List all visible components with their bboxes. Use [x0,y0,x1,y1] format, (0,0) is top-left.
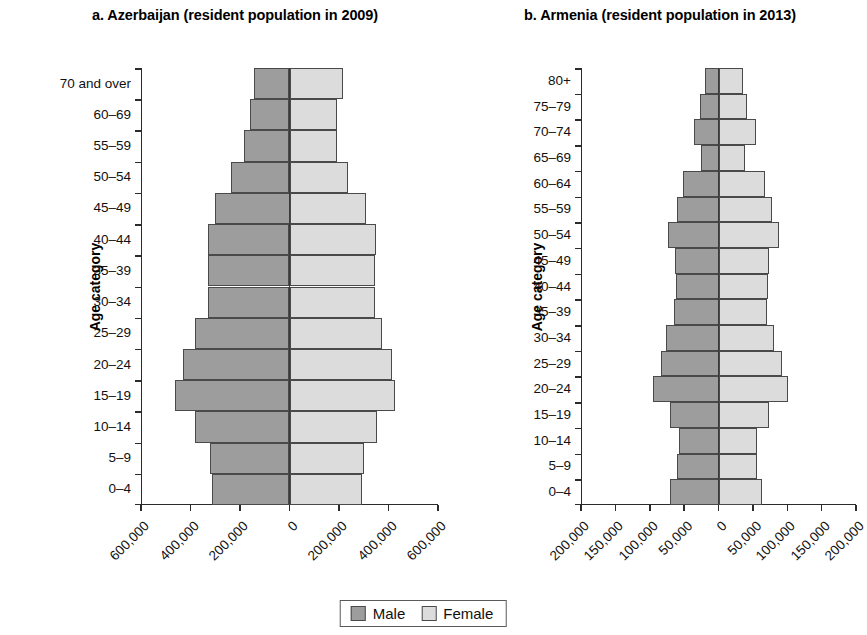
y-axis-tick-label: 75–79 [533,100,571,114]
bar-male [661,351,718,377]
bar-male [668,222,718,248]
bar-male [676,274,719,300]
y-axis-tick [575,94,581,96]
x-axis-tick-label: 50,000 [656,519,695,558]
bar-male [694,119,719,145]
bar-male [677,197,719,223]
x-axis-tick-label: 400,000 [157,519,201,563]
bar-female [719,428,758,454]
zero-center-line [289,68,291,505]
y-axis-tick-label: 30–34 [533,331,571,345]
y-axis-tick-label: 15–19 [93,389,131,403]
y-axis-tick [575,68,581,70]
y-axis-tick-label: 5–9 [548,459,571,473]
x-axis-tick [855,505,857,511]
bar-female [290,474,362,505]
x-axis-tick-label: 200,000 [306,519,350,563]
y-axis-tick [135,443,141,445]
y-axis-tick-label: 25–29 [93,326,131,340]
y-axis-tick [135,255,141,257]
y-axis-tick [575,325,581,327]
y-axis-tick-label: 20–24 [533,382,571,396]
y-axis-tick-label: 60–64 [533,177,571,191]
x-axis-tick [289,505,291,511]
y-axis-tick-label: 0–4 [548,485,571,499]
y-axis-tick [575,376,581,378]
x-axis-tick [752,505,754,511]
y-axis-tick [135,349,141,351]
bar-male [683,171,718,197]
bar-male [674,299,719,325]
bar-male [244,130,290,161]
bar-male [254,68,290,99]
y-axis-tick [575,274,581,276]
bar-female [290,162,349,193]
bar-female [290,130,337,161]
legend-swatch-female-icon [421,606,436,621]
bar-female [719,197,773,223]
y-axis-tick-label: 10–14 [533,434,571,448]
y-axis-tick [575,145,581,147]
x-axis-tick-label: 600,000 [108,519,152,563]
bar-female [719,274,769,300]
y-axis-tick [575,351,581,353]
bar-male [175,380,290,411]
x-axis-tick [388,505,390,511]
x-axis-tick [683,505,685,511]
bar-male [208,255,290,286]
y-axis-tick [575,248,581,250]
y-axis-tick-label: 70 and over [60,77,131,91]
y-axis-tick-label: 30–34 [93,295,131,309]
y-axis-title-azerbaijan: Age category [87,242,103,331]
y-axis-tick-label: 45–49 [93,201,131,215]
y-axis-tick [575,119,581,121]
y-axis-tick [135,68,141,70]
y-axis-tick [575,197,581,199]
x-axis-tick-label: 400,000 [355,519,399,563]
y-axis-tick [135,162,141,164]
y-axis-tick [575,222,581,224]
y-axis-tick-label: 50–54 [533,228,571,242]
x-axis-tick [615,505,617,511]
bar-female [719,94,747,120]
y-axis-tick-label: 40–44 [533,280,571,294]
legend: Male Female [340,600,507,627]
bar-female [290,193,367,224]
y-axis-tick-label: 60–69 [93,108,131,122]
plot-area-azerbaijan [141,68,438,505]
x-axis-tick-label: 200,000 [207,519,251,563]
y-axis-tick [575,299,581,301]
y-axis-tick [135,287,141,289]
bar-female [719,119,757,145]
x-axis-tick [718,505,720,511]
x-axis-tick [580,505,582,511]
bar-male [215,193,289,224]
y-axis-tick [135,474,141,476]
plot-area-armenia [581,68,856,505]
bar-female [290,287,375,318]
bar-male [208,224,290,255]
bar-male [250,99,290,130]
bar-female [290,99,337,130]
panel-title-armenia: b. Armenia (resident population in 2013) [430,6,846,25]
bar-male [653,376,719,402]
y-axis-tick [135,130,141,132]
y-axis-tick-label: 55–59 [93,139,131,153]
bar-female [719,376,788,402]
bar-male [679,428,718,454]
bar-female [719,454,758,480]
bar-female [290,68,343,99]
legend-item-female: Female [421,605,493,622]
x-axis-tick-label: 0 [714,519,729,534]
bar-male [670,479,719,505]
y-axis-tick [575,428,581,430]
panel-azerbaijan: a. Azerbaijan (resident population in 20… [0,0,430,600]
bar-female [719,171,766,197]
legend-item-male: Male [351,605,406,622]
panel-title-azerbaijan: a. Azerbaijan (resident population in 20… [0,6,430,25]
zero-center-line [718,68,720,505]
y-axis-tick [575,402,581,404]
x-axis-tick [649,505,651,511]
y-axis-tick-label: 55–59 [533,202,571,216]
